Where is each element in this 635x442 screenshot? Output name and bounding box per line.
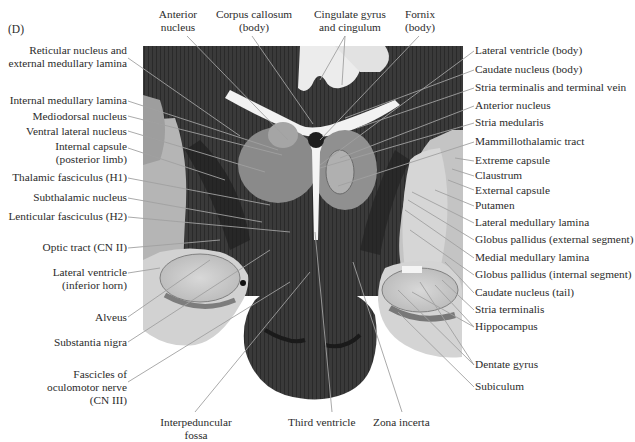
label-caudate-body: Caudate nucleus (body) <box>475 63 582 76</box>
label-line: Internal capsule <box>55 140 127 153</box>
label-line: and cingulum <box>307 21 393 34</box>
label-optic-tract: Optic tract (CN II) <box>43 241 127 254</box>
label-lateral-ventricle-body: Lateral ventricle (body) <box>475 44 582 57</box>
label-fascicles-oculomotor: Fascicles of oculomotor nerve (CN III) <box>47 368 127 407</box>
label-lenticular-fasciculus: Lenticular fasciculus (H2) <box>8 210 127 223</box>
label-alveus: Alveus <box>95 311 127 324</box>
label-subiculum: Subiculum <box>475 380 524 393</box>
label-line: Anterior <box>155 8 201 21</box>
label-line: nucleus <box>155 21 201 34</box>
label-medial-medullary-lamina: Medial medullary lamina <box>475 251 589 264</box>
label-zona-incerta: Zona incerta <box>373 416 430 429</box>
label-stria-terminalis: Stria terminalis <box>475 303 544 316</box>
label-line: Fascicles of <box>47 368 127 381</box>
label-cingulate: Cingulate gyrus and cingulum <box>307 8 393 34</box>
label-globus-pallidus-int: Globus pallidus (internal segment) <box>475 268 632 281</box>
midbrain-region <box>244 290 377 399</box>
label-mediodorsal: Mediodorsal nucleus <box>33 110 127 123</box>
panel-letter: (D) <box>8 23 24 36</box>
label-claustrum: Claustrum <box>475 169 522 182</box>
label-anterior-nucleus-right: Anterior nucleus <box>475 99 551 112</box>
label-internal-medullary-lamina: Internal medullary lamina <box>10 94 127 107</box>
label-mammillothalamic: Mammillothalamic tract <box>475 135 584 148</box>
label-anterior-nucleus-top: Anterior nucleus <box>155 8 201 34</box>
label-line: (body) <box>208 21 300 34</box>
label-line: Corpus callosum <box>208 8 300 21</box>
right-hippocampus-region <box>378 261 462 358</box>
left-hippocampus-region <box>143 249 248 346</box>
label-stria-medularis: Stria medularis <box>475 116 544 129</box>
label-substantia-nigra: Substantia nigra <box>54 336 127 349</box>
label-dentate-gyrus: Dentate gyrus <box>475 358 538 371</box>
label-ventral-lateral: Ventral lateral nucleus <box>26 125 127 138</box>
label-line: (body) <box>400 21 440 34</box>
label-line: external medullary lamina <box>8 57 127 70</box>
label-line: (CN III) <box>47 394 127 407</box>
label-line: (inferior horn) <box>53 279 127 292</box>
label-line: oculomotor nerve <box>47 381 127 394</box>
label-internal-capsule: Internal capsule (posterior limb) <box>55 140 127 166</box>
label-external-capsule: External capsule <box>475 184 550 197</box>
label-line: Cingulate gyrus <box>307 8 393 21</box>
label-line: Reticular nucleus and <box>8 44 127 57</box>
label-stria-terminalis-vein: Stria terminalis and terminal vein <box>475 81 626 94</box>
label-lateral-ventricle-inferior: Lateral ventricle (inferior horn) <box>53 266 127 292</box>
label-extreme-capsule: Extreme capsule <box>475 154 550 167</box>
label-line: Lateral ventricle <box>53 266 127 279</box>
label-line: (posterior limb) <box>55 153 127 166</box>
label-reticular: Reticular nucleus and external medullary… <box>8 44 127 70</box>
label-hippocampus: Hippocampus <box>475 320 538 333</box>
label-third-ventricle: Third ventricle <box>288 416 355 429</box>
label-fornix: Fornix (body) <box>400 8 440 34</box>
label-line: fossa <box>155 429 237 442</box>
label-line: Fornix <box>400 8 440 21</box>
label-putamen: Putamen <box>475 199 515 212</box>
label-line: Interpeduncular <box>155 416 237 429</box>
label-interpeduncular: Interpeduncular fossa <box>155 416 237 442</box>
label-globus-pallidus-ext: Globus pallidus (external segment) <box>475 233 633 246</box>
label-subthalamic: Subthalamic nucleus <box>33 191 127 204</box>
label-corpus-callosum: Corpus callosum (body) <box>208 8 300 34</box>
label-thalamic-fasciculus: Thalamic fasciculus (H1) <box>12 171 127 184</box>
label-caudate-tail: Caudate nucleus (tail) <box>475 286 574 299</box>
label-lateral-medullary-lamina: Lateral medullary lamina <box>475 216 589 229</box>
